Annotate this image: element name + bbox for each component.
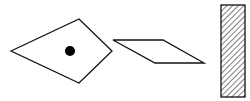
kite-shape bbox=[11, 19, 112, 83]
parallelogram-shape bbox=[113, 40, 204, 63]
diagram-canvas bbox=[0, 0, 250, 101]
center-dot bbox=[65, 46, 75, 56]
hatched-rectangle bbox=[221, 5, 245, 97]
